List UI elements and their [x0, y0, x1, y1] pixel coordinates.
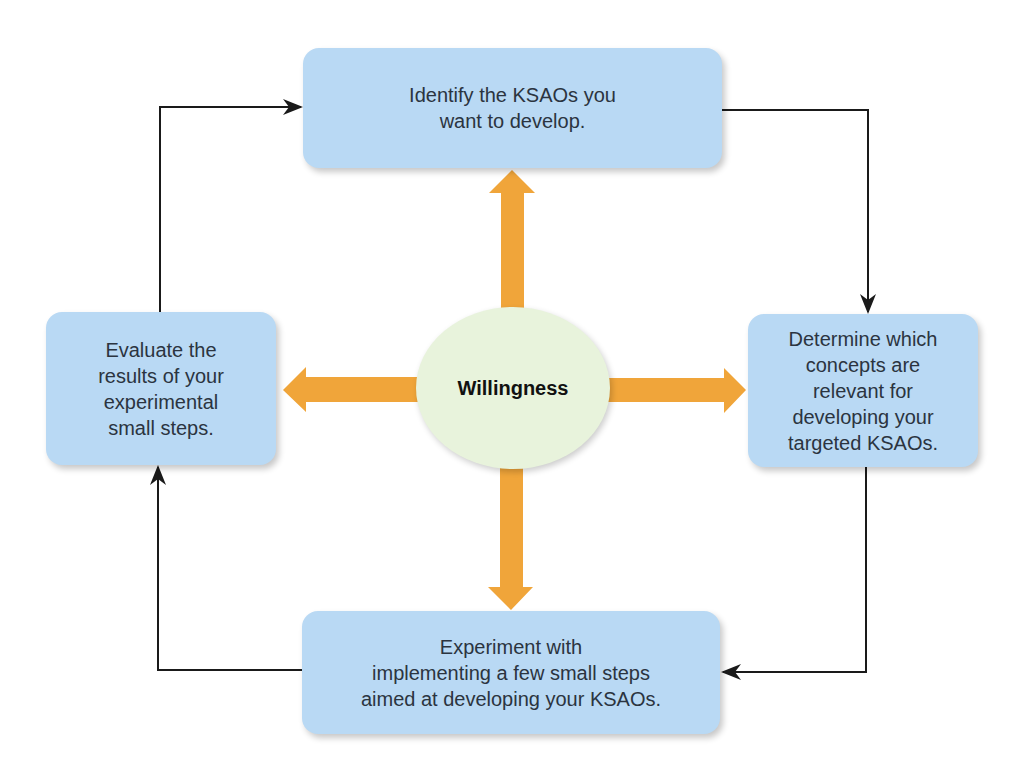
node-label: Determine which concepts are relevant fo… — [788, 326, 938, 456]
node-experiment-small-steps: Experiment with implementing a few small… — [302, 611, 720, 734]
orange-arrow-down-icon — [488, 466, 533, 610]
center-willingness: Willingness — [416, 307, 610, 469]
node-label: Experiment with implementing a few small… — [361, 634, 661, 712]
connector-right-to-bottom — [723, 467, 866, 672]
orange-arrow-right-icon — [606, 368, 746, 413]
node-label: Evaluate the results of your experimenta… — [98, 337, 224, 441]
connector-bottom-to-left — [158, 467, 302, 670]
orange-arrow-up-icon — [489, 170, 535, 309]
node-evaluate-results: Evaluate the results of your experimenta… — [46, 312, 276, 465]
connector-top-to-right — [722, 110, 868, 312]
node-determine-concepts: Determine which concepts are relevant fo… — [748, 314, 978, 467]
node-label: Identify the KSAOs you want to develop. — [409, 82, 616, 134]
center-label: Willingness — [458, 377, 569, 400]
connector-left-to-top — [160, 107, 301, 312]
node-identify-ksaos: Identify the KSAOs you want to develop. — [303, 48, 722, 168]
orange-arrow-left-icon — [283, 367, 420, 412]
